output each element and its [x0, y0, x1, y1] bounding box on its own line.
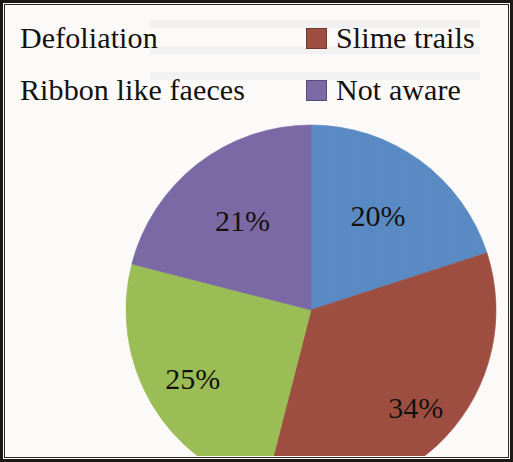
legend-item-not-aware[interactable]: Not aware [306, 64, 506, 116]
pie-container: 20%34%25%21% [6, 120, 506, 456]
pie-slice-label: 25% [165, 364, 220, 394]
legend-item-ribbon-like-faeces[interactable]: Ribbon like faeces [6, 64, 306, 116]
legend-item-defoliation[interactable]: Defoliation [6, 12, 306, 64]
pie-chart-screenshot: Defoliation Slime trails Ribbon like fae… [0, 0, 513, 462]
pie-slice-label: 34% [388, 393, 443, 423]
pie-slice-label: 20% [350, 201, 405, 231]
chart-plot-area: 20%34%25%21% [6, 120, 506, 456]
legend-label-not-aware: Not aware [336, 74, 461, 106]
legend-swatch-slime-trails [306, 28, 327, 49]
legend-row: Defoliation Slime trails [6, 12, 506, 64]
chart-legend: Defoliation Slime trails Ribbon like fae… [6, 8, 506, 120]
legend-swatch-not-aware [306, 80, 327, 101]
legend-row: Ribbon like faeces Not aware [6, 64, 506, 116]
legend-label-defoliation: Defoliation [6, 22, 158, 54]
legend-label-slime-trails: Slime trails [336, 22, 475, 54]
pie-slice-label: 21% [215, 206, 270, 236]
legend-label-ribbon-like-faeces: Ribbon like faeces [6, 74, 245, 106]
legend-item-slime-trails[interactable]: Slime trails [306, 12, 506, 64]
